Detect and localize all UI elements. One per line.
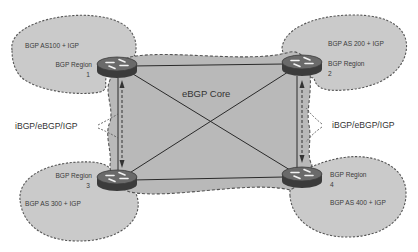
bgp-topology-diagram: BGP AS100 + IGP BGP Region 1 BGP AS 200 … <box>0 0 418 252</box>
region-3-as-label: BGP AS 300 + IGP <box>25 200 81 207</box>
region-2-as-label: BGP AS 200 + IGP <box>328 40 384 47</box>
router-3[interactable] <box>97 170 137 191</box>
region-4-number: 4 <box>330 181 334 188</box>
region-1-number: 1 <box>86 71 90 78</box>
region-4-as-label: BGP AS 400 + IGP <box>330 199 386 206</box>
region-2-number: 2 <box>328 70 332 77</box>
region-3-number: 3 <box>86 182 90 189</box>
left-link-annotation: iBGP/eBGP/IGP <box>15 121 78 131</box>
ebgp-core-region <box>108 52 312 194</box>
router-1[interactable] <box>97 57 137 78</box>
right-link-annotation: iBGP/eBGP/IGP <box>332 120 395 130</box>
core-label: eBGP Core <box>182 88 230 99</box>
router-4[interactable] <box>282 167 322 188</box>
router-2[interactable] <box>282 55 322 76</box>
region-1-as-label: BGP AS100 + IGP <box>25 42 80 49</box>
region-4-region-label: BGP Region <box>330 171 367 179</box>
region-3-region-label: BGP Region <box>55 172 92 180</box>
region-2-region-label: BGP Region <box>328 60 365 68</box>
region-1-region-label: BGP Region <box>55 61 92 69</box>
